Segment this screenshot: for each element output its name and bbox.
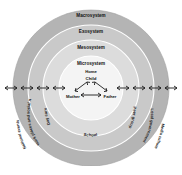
center-father-label: Father	[104, 94, 117, 99]
ring-label-exosystem: Exosystem	[79, 29, 103, 34]
center-home-label: Home	[85, 69, 97, 74]
ring-label-macrosystem: Macrosystem	[76, 13, 105, 18]
center-mother-label: Mother	[66, 94, 80, 99]
ring-label-mesosystem: Mesosystem	[77, 45, 105, 50]
ecological-systems-diagram: Macrosystem Exosystem Mesosystem Microsy…	[0, 0, 182, 175]
center-child-label: Child	[86, 76, 97, 81]
mesosystem-label-school: School	[83, 132, 97, 138]
ring-label-microsystem: Microsystem	[77, 61, 105, 66]
bottom-margin	[0, 166, 182, 175]
